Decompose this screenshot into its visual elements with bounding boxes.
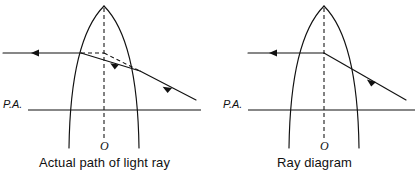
caption-actual-path: Actual path of light ray xyxy=(0,155,209,170)
lens-right-surface xyxy=(324,6,359,148)
ray-diagram-drawing: P.A. O xyxy=(210,0,419,177)
caption-ray-diagram: Ray diagram xyxy=(210,155,419,170)
emergent-ray-arrowhead xyxy=(163,87,172,93)
optic-centre-label: O xyxy=(320,139,329,153)
lens-left-surface xyxy=(289,6,324,148)
panel-actual-path: P.A. O Actual path of light ray xyxy=(0,0,209,177)
lens-right-surface xyxy=(104,6,139,148)
actual-path-drawing: P.A. O xyxy=(0,0,209,177)
principal-axis-label: P.A. xyxy=(3,98,22,110)
optic-centre-label: O xyxy=(100,139,109,153)
lens-left-surface xyxy=(69,6,104,148)
emergent-ray xyxy=(140,71,196,100)
incident-ray-arrowhead xyxy=(269,50,277,57)
principal-axis-label: P.A. xyxy=(223,98,242,110)
emergent-ray xyxy=(324,53,406,100)
incident-ray-arrowhead xyxy=(31,50,39,57)
optics-figure: P.A. O Actual path of light ray xyxy=(0,0,419,177)
panel-ray-diagram: P.A. O Ray diagram xyxy=(210,0,419,177)
